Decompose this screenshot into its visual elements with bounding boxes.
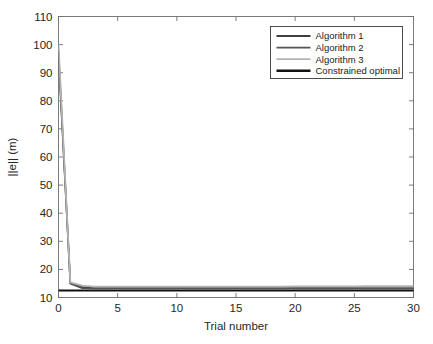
y-tick-label: 60 [40, 151, 53, 163]
y-tick-label: 80 [40, 95, 53, 107]
legend-label: Algorithm 2 [316, 42, 364, 53]
y-tick-label: 110 [34, 11, 52, 23]
y-tick-label: 70 [40, 123, 53, 135]
y-tick-label: 20 [40, 263, 53, 275]
y-tick-label: 90 [40, 67, 53, 79]
y-tick-label: 100 [33, 39, 52, 51]
legend-label: Constrained optimal [316, 65, 401, 76]
x-axis-label: Trial number [204, 320, 268, 332]
x-tick-label: 25 [348, 302, 361, 314]
chart-legend: Algorithm 1Algorithm 2Algorithm 3Constra… [271, 27, 403, 79]
y-axis-label: ||e|| (m) [6, 137, 18, 176]
line-chart: 051015202530 102030405060708090100110 Tr… [0, 0, 433, 344]
legend-label: Algorithm 1 [316, 30, 364, 41]
y-tick-label: 50 [40, 179, 53, 191]
x-tick-label: 10 [170, 302, 183, 314]
x-tick-label: 15 [230, 302, 243, 314]
y-tick-label: 40 [40, 207, 53, 219]
y-tick-label: 10 [40, 292, 53, 304]
chart-figure: 051015202530 102030405060708090100110 Tr… [0, 0, 433, 344]
legend-label: Algorithm 3 [316, 54, 364, 65]
y-tick-label: 30 [40, 235, 53, 247]
x-tick-label: 30 [407, 302, 420, 314]
x-tick-label: 5 [114, 302, 120, 314]
x-tick-label: 20 [289, 302, 302, 314]
x-tick-label: 0 [55, 302, 61, 314]
